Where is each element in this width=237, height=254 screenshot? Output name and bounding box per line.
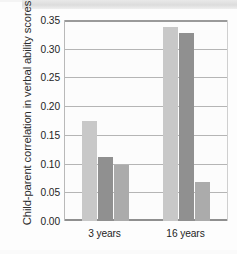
bar	[163, 27, 178, 221]
y-tick-label: 0.25	[24, 72, 60, 83]
bar	[82, 121, 97, 222]
y-axis-tick-labels: 0.350.300.250.200.150.100.050.00	[24, 0, 60, 254]
y-tick-label: 0.20	[24, 101, 60, 112]
y-tick-label: 0.05	[24, 187, 60, 198]
y-tick-label: 0.00	[24, 216, 60, 227]
page-edge	[0, 250, 237, 254]
bar	[195, 182, 210, 221]
bar	[114, 165, 129, 221]
chart-figure: Child-parent correlation in verbal abili…	[0, 0, 237, 254]
x-tick-label: 16 years	[166, 228, 204, 239]
bar	[179, 33, 194, 221]
bar	[98, 157, 113, 221]
y-tick-label: 0.15	[24, 129, 60, 140]
y-tick-label: 0.10	[24, 158, 60, 169]
x-axis-tick-labels: 3 years16 years	[64, 228, 226, 244]
plot-area	[64, 20, 228, 221]
bars-layer	[65, 20, 227, 221]
x-tick-label: 3 years	[88, 228, 121, 239]
y-tick-label: 0.35	[24, 15, 60, 26]
y-tick-label: 0.30	[24, 43, 60, 54]
